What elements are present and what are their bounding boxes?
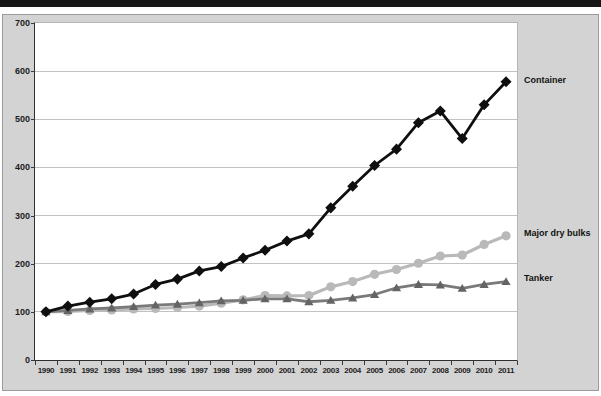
major-dry-bulks-marker bbox=[458, 250, 467, 259]
y-tick-label: 700 bbox=[5, 18, 30, 28]
x-tick-mark bbox=[57, 361, 58, 365]
x-tick-mark bbox=[101, 361, 102, 365]
x-tick-label: 2002 bbox=[298, 366, 320, 375]
container-marker bbox=[238, 252, 249, 263]
x-tick-mark bbox=[166, 361, 167, 365]
y-tick-mark bbox=[31, 264, 35, 265]
x-tick-mark bbox=[320, 361, 321, 365]
x-tick-mark bbox=[342, 361, 343, 365]
x-tick-mark bbox=[451, 361, 452, 365]
x-tick-mark bbox=[210, 361, 211, 365]
x-tick-label: 1992 bbox=[79, 366, 101, 375]
x-tick-label: 1994 bbox=[123, 366, 145, 375]
x-tick-mark bbox=[517, 361, 518, 365]
x-tick-label: 2010 bbox=[473, 366, 495, 375]
container-marker bbox=[281, 236, 292, 247]
x-tick-label: 2004 bbox=[342, 366, 364, 375]
x-tick-mark bbox=[35, 361, 36, 365]
x-tick-label: 1998 bbox=[210, 366, 232, 375]
x-tick-mark bbox=[429, 361, 430, 365]
x-tick-label: 1991 bbox=[57, 366, 79, 375]
major-dry-bulks-marker bbox=[414, 259, 423, 268]
x-tick-label: 1996 bbox=[166, 366, 188, 375]
major-dry-bulks-marker bbox=[501, 231, 510, 240]
major-dry-bulks-marker bbox=[480, 240, 489, 249]
x-tick-mark bbox=[145, 361, 146, 365]
container-marker bbox=[172, 274, 183, 285]
screenshot-root: Container Major dry bulks Tanker 0100200… bbox=[0, 0, 601, 396]
x-tick-label: 2006 bbox=[386, 366, 408, 375]
chart-canvas bbox=[35, 23, 517, 360]
container-line bbox=[46, 82, 506, 312]
y-tick-label: 100 bbox=[5, 307, 30, 317]
container-marker bbox=[150, 279, 161, 290]
x-tick-label: 1990 bbox=[35, 366, 57, 375]
x-tick-label: 2001 bbox=[276, 366, 298, 375]
top-title-bar bbox=[0, 0, 601, 7]
plot-area bbox=[34, 22, 518, 361]
x-tick-mark bbox=[123, 361, 124, 365]
major-dry-bulks-marker bbox=[392, 265, 401, 274]
x-tick-mark bbox=[364, 361, 365, 365]
x-tick-label: 2003 bbox=[320, 366, 342, 375]
container-marker bbox=[128, 289, 139, 300]
x-tick-label: 2008 bbox=[429, 366, 451, 375]
y-tick-label: 0 bbox=[5, 355, 30, 365]
x-tick-label: 1999 bbox=[232, 366, 254, 375]
y-tick-mark bbox=[31, 71, 35, 72]
x-tick-label: 2009 bbox=[451, 366, 473, 375]
x-tick-mark bbox=[407, 361, 408, 365]
legend-container-label: Container bbox=[524, 75, 566, 85]
x-tick-label: 2011 bbox=[495, 366, 517, 375]
chart-panel: Container Major dry bulks Tanker 0100200… bbox=[2, 14, 599, 391]
container-marker bbox=[40, 306, 51, 317]
x-tick-mark bbox=[495, 361, 496, 365]
y-tick-mark bbox=[31, 167, 35, 168]
y-tick-label: 400 bbox=[5, 162, 30, 172]
legend-major-dry-bulks-label: Major dry bulks bbox=[524, 228, 591, 238]
x-tick-label: 1995 bbox=[145, 366, 167, 375]
x-tick-mark bbox=[254, 361, 255, 365]
y-tick-label: 500 bbox=[5, 114, 30, 124]
x-tick-mark bbox=[473, 361, 474, 365]
y-tick-mark bbox=[31, 312, 35, 313]
container-marker bbox=[194, 265, 205, 276]
x-tick-mark bbox=[79, 361, 80, 365]
y-tick-label: 200 bbox=[5, 259, 30, 269]
x-tick-mark bbox=[232, 361, 233, 365]
y-tick-mark bbox=[31, 119, 35, 120]
legend-tanker-label: Tanker bbox=[524, 273, 553, 283]
y-tick-mark bbox=[31, 216, 35, 217]
x-tick-label: 2000 bbox=[254, 366, 276, 375]
x-tick-mark bbox=[386, 361, 387, 365]
major-dry-bulks-marker bbox=[326, 282, 335, 291]
major-dry-bulks-marker bbox=[348, 277, 357, 286]
y-tick-mark bbox=[31, 23, 35, 24]
container-marker bbox=[260, 245, 271, 256]
x-tick-label: 2007 bbox=[407, 366, 429, 375]
container-marker bbox=[106, 293, 117, 304]
x-tick-mark bbox=[298, 361, 299, 365]
x-tick-label: 2005 bbox=[364, 366, 386, 375]
x-tick-mark bbox=[276, 361, 277, 365]
container-marker bbox=[216, 261, 227, 272]
y-tick-label: 300 bbox=[5, 211, 30, 221]
y-tick-label: 600 bbox=[5, 66, 30, 76]
major-dry-bulks-marker bbox=[436, 251, 445, 260]
major-dry-bulks-marker bbox=[370, 270, 379, 279]
x-tick-mark bbox=[188, 361, 189, 365]
container-marker bbox=[84, 297, 95, 308]
x-tick-label: 1993 bbox=[101, 366, 123, 375]
x-tick-label: 1997 bbox=[188, 366, 210, 375]
